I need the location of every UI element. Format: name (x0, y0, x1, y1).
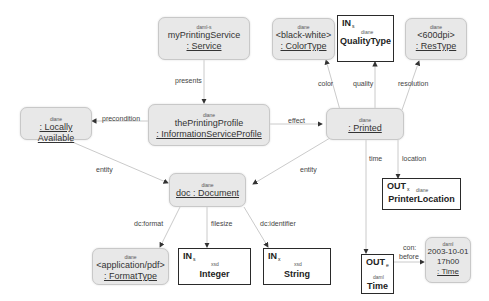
node-color-type[interactable]: diane <black-white> : ColorType (272, 18, 335, 60)
node-printer-location[interactable]: OUTx diane PrinterLocation (382, 178, 461, 210)
node-format-type[interactable]: diane <application/pdf> : FormatType (92, 248, 169, 285)
type-name: : InformationServiceProfile (149, 129, 269, 140)
type-name: Time (362, 281, 393, 291)
node-time[interactable]: OUTe daml Time (361, 254, 394, 294)
type-name: Integer (179, 269, 250, 279)
instance-name: thePrintingProfile (149, 118, 269, 129)
edge-label-entity-right: entity (300, 166, 317, 174)
node-the-printing-profile[interactable]: diane thePrintingProfile : InformationSe… (148, 104, 270, 146)
type-name: : Printed (327, 123, 403, 134)
type-name: : Time (426, 267, 470, 277)
edge-label-time: time (369, 155, 382, 163)
node-res-type[interactable]: diane <600dpi> : ResType (405, 18, 467, 60)
time-value: 17h00 (426, 257, 470, 267)
edge-entity-left (70, 141, 168, 183)
edge-label-before: before (399, 253, 419, 261)
node-printed[interactable]: diane : Printed (326, 108, 404, 140)
node-integer[interactable]: INs xsd Integer (178, 248, 251, 285)
value-name: <600dpi> (406, 30, 466, 41)
io-marker: INx (268, 251, 281, 262)
node-string[interactable]: INx xsd String (263, 248, 331, 285)
type-name: : ResType (406, 41, 466, 52)
node-time-value[interactable]: daml 2003-10-01 17h00 : Time (425, 237, 471, 283)
namespace-label: xsd (294, 261, 302, 267)
edge-label-presents: presents (175, 77, 202, 85)
type-name: String (264, 269, 330, 279)
instance-name: myPrintingService (159, 30, 249, 41)
edge-label-dc-format: dc:format (134, 220, 163, 228)
edge-label-filesize: filesize (211, 220, 232, 228)
edge-label-con: con: (403, 244, 416, 252)
namespace-label: xsd (211, 261, 219, 267)
namespace-label: diane (361, 29, 373, 35)
io-marker: OUTx (387, 181, 410, 192)
edge-label-color: color (318, 80, 333, 88)
io-marker: INs (342, 18, 355, 29)
type-name: : Service (159, 41, 249, 52)
namespace-label: daml (373, 274, 384, 280)
edge-label-effect: effect (288, 117, 305, 125)
edge-label-dc-identifier: dc:identifier (260, 220, 296, 228)
edge-label-precondition: precondition (102, 115, 140, 123)
node-quality-type[interactable]: INs diane QualityType (337, 15, 394, 62)
type-name: doc : Document (170, 188, 245, 199)
namespace-label: diane (416, 187, 428, 193)
value-name: <application/pdf> (93, 260, 168, 271)
edge-label-resolution: resolution (398, 80, 428, 88)
type-name: : ColorType (273, 41, 334, 52)
type-name: PrinterLocation (383, 194, 460, 204)
io-marker: OUTe (366, 257, 389, 268)
io-marker: INs (183, 251, 196, 262)
type-name: : FormatType (93, 271, 168, 282)
value-name: <black-white> (273, 30, 334, 41)
node-locally-available[interactable]: diane : Locally Available (20, 107, 92, 140)
date-value: 2003-10-01 (426, 247, 470, 257)
node-my-printing-service[interactable]: daml-s myPrintingService : Service (158, 17, 250, 60)
type-name: QualityType (338, 36, 393, 46)
edge-label-quality: quality (353, 80, 373, 88)
type-name: : Locally Available (21, 122, 91, 144)
edge-label-entity-left: entity (96, 166, 113, 174)
edge-label-location: location (402, 155, 426, 163)
node-document[interactable]: diane doc : Document (169, 173, 246, 207)
